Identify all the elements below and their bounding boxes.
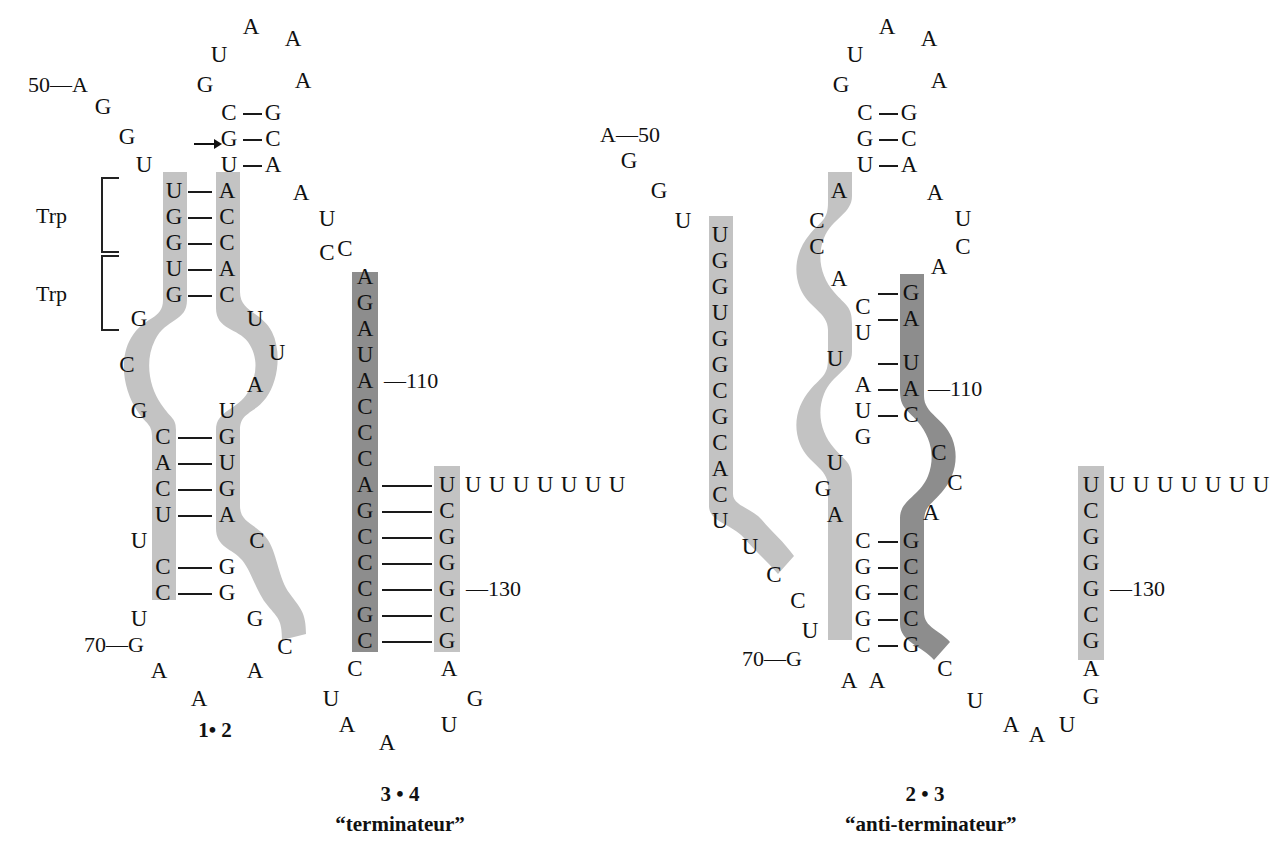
base-pair-bond bbox=[243, 139, 262, 141]
caption-3-4: 3 • 4 bbox=[355, 782, 445, 807]
residue: A bbox=[838, 668, 860, 694]
residue: G bbox=[354, 498, 376, 524]
residue: U bbox=[852, 320, 874, 346]
residue: G bbox=[92, 94, 114, 120]
residue: U bbox=[1130, 472, 1152, 498]
base-pair-bond bbox=[878, 319, 898, 321]
residue: U bbox=[218, 152, 240, 178]
residue: U bbox=[852, 398, 874, 424]
pos-50-label-right: A—50 bbox=[600, 122, 660, 148]
base-pair-bond bbox=[178, 463, 212, 465]
residue: U bbox=[964, 688, 986, 714]
residue: G bbox=[163, 282, 185, 308]
residue: U bbox=[128, 606, 150, 632]
residue: G bbox=[709, 404, 731, 430]
residue: C bbox=[152, 424, 174, 450]
base-pair-bond bbox=[879, 113, 898, 115]
residue: U bbox=[128, 528, 150, 554]
residue: G bbox=[709, 274, 731, 300]
residue: C bbox=[218, 100, 240, 126]
residue: G bbox=[900, 280, 922, 306]
residue: G bbox=[852, 424, 874, 450]
residue: A bbox=[244, 372, 266, 398]
residue: G bbox=[898, 100, 920, 126]
residue: U bbox=[709, 300, 731, 326]
residue: U bbox=[582, 472, 604, 498]
residue: G bbox=[163, 230, 185, 256]
residue: A bbox=[216, 178, 238, 204]
arrow-right-icon bbox=[194, 136, 222, 152]
base-pair-bond bbox=[382, 641, 432, 643]
base-pair-bond bbox=[188, 243, 212, 245]
residue: U bbox=[952, 206, 974, 232]
residue: U bbox=[486, 472, 508, 498]
base-pair-bond bbox=[878, 389, 898, 391]
residue: G bbox=[128, 306, 150, 332]
base-pair-bond bbox=[178, 567, 212, 569]
residue: U bbox=[606, 472, 628, 498]
residue: C bbox=[436, 498, 458, 524]
residue: G bbox=[436, 576, 458, 602]
residue: G bbox=[194, 72, 216, 98]
residue: G bbox=[216, 580, 238, 606]
residue: G bbox=[1080, 576, 1102, 602]
residue: G bbox=[648, 178, 670, 204]
base-pair-bond bbox=[878, 293, 898, 295]
residue: C bbox=[354, 628, 376, 654]
residue: G bbox=[900, 528, 922, 554]
residue: C bbox=[852, 528, 874, 554]
residue: C bbox=[262, 126, 284, 152]
base-pair-bond bbox=[878, 567, 898, 569]
residue: A bbox=[1026, 722, 1048, 748]
residue: C bbox=[344, 656, 366, 682]
base-pair-bond bbox=[178, 437, 212, 439]
residue: G bbox=[216, 476, 238, 502]
residue: G bbox=[1080, 684, 1102, 710]
residue: C bbox=[806, 208, 828, 234]
residue: C bbox=[952, 234, 974, 260]
residue: U bbox=[854, 152, 876, 178]
residue: U bbox=[510, 472, 532, 498]
residue: C bbox=[854, 100, 876, 126]
residue: U bbox=[672, 208, 694, 234]
caption-2-3: 2 • 3 bbox=[880, 782, 970, 807]
residue: U bbox=[1154, 472, 1176, 498]
residue: C bbox=[152, 476, 174, 502]
residue: A bbox=[852, 372, 874, 398]
residue: C bbox=[898, 126, 920, 152]
subcaption-3-4: “terminateur” bbox=[330, 812, 470, 837]
residue: G bbox=[464, 686, 486, 712]
residue: G bbox=[709, 248, 731, 274]
residue: U bbox=[824, 450, 846, 476]
residue: G bbox=[436, 550, 458, 576]
residue: A bbox=[709, 456, 731, 482]
base-pair-bond bbox=[188, 295, 212, 297]
residue: G bbox=[163, 204, 185, 230]
residue: G bbox=[1080, 628, 1102, 654]
base-pair-bond bbox=[188, 217, 212, 219]
residue: U bbox=[1250, 472, 1272, 498]
subcaption-2-3: “anti-terminateur” bbox=[845, 812, 1015, 837]
pos-70-label-left: 70—G bbox=[84, 632, 144, 658]
residue: U bbox=[1056, 712, 1078, 738]
residue: U bbox=[436, 472, 458, 498]
trp-bracket-lower bbox=[101, 255, 119, 331]
residue: G bbox=[244, 606, 266, 632]
residue: U bbox=[244, 306, 266, 332]
base-pair-bond bbox=[878, 619, 898, 621]
trp-label-upper: Trp bbox=[36, 203, 67, 229]
residue: C bbox=[152, 554, 174, 580]
residue: U bbox=[709, 222, 731, 248]
residue: C bbox=[806, 234, 828, 260]
residue: C bbox=[216, 282, 238, 308]
residue: U bbox=[824, 346, 846, 372]
base-pair-bond bbox=[382, 485, 432, 487]
residue: A bbox=[292, 68, 314, 94]
residue: A bbox=[1080, 656, 1102, 682]
residue: A bbox=[216, 502, 238, 528]
residue: G bbox=[436, 628, 458, 654]
residue: G bbox=[852, 606, 874, 632]
base-pair-bond bbox=[382, 511, 432, 513]
base-pair-bond bbox=[878, 593, 898, 595]
residue: A bbox=[354, 368, 376, 394]
